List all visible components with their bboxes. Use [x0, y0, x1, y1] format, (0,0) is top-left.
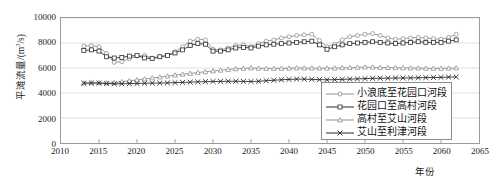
data-point-square	[112, 56, 116, 60]
data-series-layer	[81, 32, 458, 87]
data-point-square	[416, 40, 420, 44]
data-point-circle	[82, 44, 86, 48]
data-point-square	[181, 48, 185, 52]
data-point-square	[135, 54, 139, 58]
data-point-circle	[355, 34, 359, 38]
data-point-square	[371, 40, 375, 44]
data-point-square	[340, 43, 344, 47]
data-point-circle	[188, 39, 192, 43]
data-point-circle	[447, 35, 451, 39]
data-point-square	[97, 49, 101, 53]
x-tick-label: 2040	[280, 146, 298, 156]
data-point-circle	[338, 92, 342, 96]
x-tick-label: 2060	[433, 146, 451, 156]
data-point-square	[287, 41, 291, 45]
data-point-square	[257, 44, 261, 48]
data-point-circle	[120, 60, 124, 64]
legend-swatch-circle-icon	[325, 86, 355, 98]
data-point-square	[89, 48, 93, 52]
data-point-square	[82, 49, 86, 53]
data-point-circle	[287, 35, 291, 39]
data-point-circle	[454, 32, 458, 36]
data-point-square	[447, 39, 451, 43]
x-tick-label: 2035	[242, 146, 260, 156]
data-point-square	[338, 105, 342, 109]
legend-label: 艾山至利津河段	[357, 123, 427, 138]
series-0	[82, 32, 458, 65]
x-tick-label: 2050	[356, 146, 374, 156]
y-tick-label: 4000	[16, 89, 56, 98]
data-point-circle	[310, 32, 314, 36]
data-point-circle	[348, 35, 352, 39]
data-point-square	[454, 38, 458, 42]
data-point-square	[203, 42, 207, 46]
data-point-square	[127, 54, 131, 58]
data-point-circle	[112, 60, 116, 64]
data-point-circle	[203, 38, 207, 42]
data-point-square	[431, 40, 435, 44]
data-point-square	[386, 41, 390, 45]
data-point-circle	[196, 37, 200, 41]
data-point-square	[188, 44, 192, 48]
data-point-circle	[302, 33, 306, 37]
data-point-square	[378, 40, 382, 44]
data-point-circle	[97, 45, 101, 49]
legend-item-3[interactable]: 艾山至利津河段	[325, 124, 447, 137]
x-tick-label: 2030	[204, 146, 222, 156]
data-point-square	[363, 40, 367, 44]
x-axis-ticks: 2010201520202025203020352040204520502055…	[0, 146, 493, 164]
data-point-square	[439, 40, 443, 44]
data-point-circle	[340, 38, 344, 42]
data-point-circle	[317, 39, 321, 43]
data-point-square	[219, 49, 223, 53]
x-tick-label: 2020	[127, 146, 145, 156]
data-point-square	[226, 48, 230, 52]
data-point-square	[317, 43, 321, 47]
data-point-square	[143, 56, 147, 60]
data-point-square	[310, 39, 314, 43]
legend-swatch-square-icon	[325, 99, 355, 111]
data-point-circle	[431, 37, 435, 41]
legend-swatch-cross-icon	[325, 125, 355, 137]
data-point-square	[196, 42, 200, 46]
legend-swatch-triangle-icon	[325, 112, 355, 124]
x-axis-title: 年份	[415, 164, 435, 178]
x-tick-label: 2015	[89, 146, 107, 156]
data-point-circle	[378, 34, 382, 38]
data-point-square	[409, 40, 413, 44]
data-point-circle	[401, 37, 405, 41]
x-tick-label: 2045	[318, 146, 336, 156]
data-point-circle	[393, 37, 397, 41]
data-point-square	[325, 47, 329, 51]
data-point-circle	[264, 39, 268, 43]
data-point-square	[158, 55, 162, 59]
data-point-circle	[89, 44, 93, 48]
data-point-square	[264, 43, 268, 47]
data-point-circle	[371, 32, 375, 36]
data-point-square	[348, 42, 352, 46]
x-tick-label: 2010	[51, 146, 69, 156]
data-point-square	[150, 57, 154, 61]
y-tick-label: 2000	[16, 114, 56, 123]
data-point-square	[173, 51, 177, 55]
x-tick-label: 2065	[471, 146, 489, 156]
data-point-square	[302, 40, 306, 44]
data-point-square	[401, 41, 405, 45]
data-point-square	[234, 46, 238, 50]
data-point-square	[249, 46, 253, 50]
bankfull-discharge-chart: 平滩流量/(m3/s) 0200040006000800010000 20102…	[0, 0, 493, 185]
data-point-circle	[409, 36, 413, 40]
data-point-circle	[424, 36, 428, 40]
data-point-circle	[295, 34, 299, 38]
data-point-circle	[363, 32, 367, 36]
data-point-square	[272, 42, 276, 46]
data-point-square	[393, 42, 397, 46]
y-tick-label: 10000	[16, 13, 56, 22]
data-point-square	[355, 41, 359, 45]
data-point-square	[120, 55, 124, 59]
data-point-square	[279, 42, 283, 46]
data-point-circle	[279, 36, 283, 40]
data-point-square	[333, 45, 337, 49]
y-tick-label: 8000	[16, 38, 56, 47]
series-1	[82, 38, 458, 61]
